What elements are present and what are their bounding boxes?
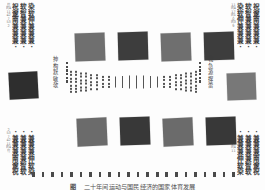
strip-tick [32, 172, 35, 176]
tick-column [169, 76, 171, 88]
text-glyph: · [14, 44, 17, 51]
tick-dot [195, 74, 197, 76]
lens-tick-field [70, 60, 196, 104]
tick-dot [102, 76, 104, 78]
left-side-square [8, 71, 38, 99]
tick-column [163, 76, 165, 88]
tick-dot [169, 76, 171, 78]
tick-column [157, 77, 158, 88]
ladder-dot [66, 69, 68, 71]
tick-dot [102, 86, 104, 88]
tick-dot [70, 74, 72, 76]
tick-line [115, 77, 116, 88]
tick-dot [90, 84, 92, 86]
tick-column [195, 71, 197, 93]
tick-column [143, 76, 144, 89]
tick-dot [70, 81, 72, 83]
tick-dot [90, 81, 92, 83]
tick-dot [90, 78, 92, 80]
tick-dot [180, 78, 182, 80]
tick-dot [180, 84, 182, 86]
tick-dot [80, 73, 82, 75]
axis-label-left: 抻构默敏欹 [53, 56, 58, 89]
tick-dot [185, 73, 187, 75]
text-column-1: ·兼兼兼伸软染 [237, 129, 244, 176]
tick-dot [175, 88, 177, 90]
text-glyph: 9 [232, 25, 234, 29]
tick-dot [75, 81, 77, 83]
ladder-dot [199, 80, 201, 82]
bottom-tick-strip [32, 171, 235, 178]
tick-dot [180, 88, 182, 90]
text-glyph: 11 [231, 150, 235, 154]
strip-tick [213, 172, 216, 176]
tick-column [108, 76, 110, 88]
tick-dot [75, 74, 77, 76]
tick-line [157, 77, 158, 88]
strip-tick [61, 172, 64, 176]
tick-column [150, 76, 151, 88]
tick-dot [96, 84, 98, 86]
tick-dot [102, 79, 104, 81]
tick-dot [80, 79, 82, 81]
tick-dot [70, 71, 72, 73]
tick-line [143, 76, 144, 89]
corner-label-top-left: 染软伸兼兼兼·软智兼兼兼兼·祝邃南兼兼兼·竹的411427532 [6, 4, 35, 51]
text-glyph: 软 [20, 169, 27, 176]
strip-tick [223, 172, 226, 176]
strip-tick [118, 172, 121, 176]
text-column-3: ·兼兼兼南邃祝 [253, 129, 260, 176]
axis-glyph: 欹 [53, 82, 58, 89]
tick-dot [75, 84, 77, 86]
tick-dot [185, 83, 187, 85]
tick-dot [195, 91, 197, 93]
text-column-0: 染软伸兼兼兼· [28, 4, 35, 51]
tick-dot [190, 83, 192, 85]
tick-dot [180, 74, 182, 76]
tick-dot [102, 83, 104, 85]
figure-number: 图 [70, 183, 76, 190]
tick-column [70, 71, 72, 93]
text-column-2: ·兼兼兼兼智软 [245, 129, 252, 176]
tick-dot [80, 76, 82, 78]
tick-dot [169, 83, 171, 85]
ladder-dot [199, 66, 201, 68]
tick-line [129, 76, 130, 89]
tick-dot [80, 86, 82, 88]
strip-tick [185, 172, 188, 176]
strip-tick [89, 172, 92, 176]
bottom-row-square-2 [120, 116, 151, 145]
tick-dot [190, 86, 192, 88]
text-glyph: 软 [245, 169, 252, 176]
tick-dot [85, 76, 87, 78]
figure-caption: 图 二十年间运动与国民经济的国家体育发展 [0, 182, 265, 190]
ladder-dot [66, 62, 68, 64]
right-side-square [227, 73, 257, 101]
figure-caption-text: 二十年间运动与国民经济的国家体育发展 [84, 183, 196, 190]
corner-label-top-right: 11的417的10的39染软伸兼兼兼·软智兼兼兼兼·祝邃南兼兼兼· [231, 4, 260, 51]
tick-dot [80, 83, 82, 85]
tick-column [190, 73, 192, 92]
tick-dot [175, 74, 177, 76]
text-column-2: ·兼兼兼南邃祝 [12, 129, 19, 176]
text-column-2: 祝邃南兼兼兼· [12, 4, 19, 51]
tick-line [122, 76, 123, 88]
bottom-row-square-3 [162, 117, 193, 146]
tick-dot [70, 88, 72, 90]
tick-column [115, 77, 116, 88]
tick-dot [108, 79, 110, 81]
text-column-0: ·兼兼兼伸软染 [28, 129, 35, 176]
tick-dot [70, 84, 72, 86]
tick-dot [185, 86, 187, 88]
bottom-row-square-1 [76, 117, 107, 146]
text-glyph: · [22, 44, 25, 51]
tick-dot [85, 73, 87, 75]
strip-tick [99, 172, 102, 176]
tick-dot [90, 88, 92, 90]
tick-dot [75, 71, 77, 73]
strip-tick [175, 172, 178, 176]
strip-tick [156, 172, 159, 176]
corner-label-bottom-left: ·兼兼兼伸软染·兼兼兼兼智软·兼兼兼南邃祝25374211的4竹 [6, 129, 35, 176]
top-row-square-1 [75, 32, 106, 61]
ladder-dot [199, 73, 201, 75]
